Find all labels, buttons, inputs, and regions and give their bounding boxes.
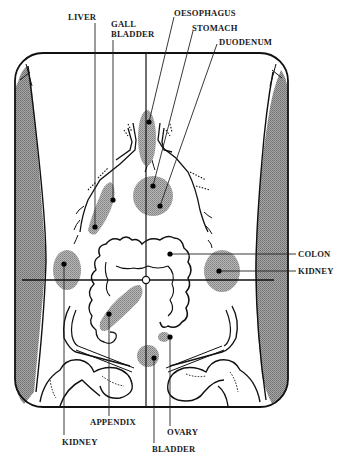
appendix-shading — [100, 285, 143, 331]
label-oesophagus: OESOPHAGUS — [174, 8, 236, 18]
bladder-shading — [137, 345, 159, 367]
marker-oesophagus — [146, 119, 151, 124]
label-gall-line2: BLADDER — [111, 29, 155, 39]
label-kidney-left: KIDNEY — [62, 437, 98, 447]
label-colon: COLON — [298, 249, 331, 259]
marker-liver — [92, 224, 97, 229]
kidney-left-shading — [53, 250, 81, 290]
abdomen-diagram: LIVER GALL BLADDER OESOPHAGUS STOMACH DU… — [0, 0, 346, 466]
marker-stomach — [150, 183, 155, 188]
oesophagus-shading — [138, 110, 156, 166]
marker-kidney-right — [216, 268, 221, 273]
marker-bladder — [151, 355, 156, 360]
label-liver: LIVER — [68, 12, 97, 22]
label-appendix: APPENDIX — [90, 417, 137, 427]
stomach-shading — [133, 176, 173, 216]
umbilicus-marker — [142, 276, 149, 283]
labels: LIVER GALL BLADDER OESOPHAGUS STOMACH DU… — [62, 8, 334, 454]
marker-appendix — [106, 311, 111, 316]
label-bladder: BLADDER — [152, 444, 196, 454]
label-ovary: OVARY — [167, 427, 199, 437]
marker-gall-bladder — [110, 197, 115, 202]
marker-duodenum — [157, 203, 162, 208]
label-kidney-right: KIDNEY — [298, 266, 334, 276]
marker-kidney-left — [61, 261, 66, 266]
left-flank-shading — [15, 66, 46, 404]
label-gall-line1: GALL — [111, 19, 136, 29]
marker-colon — [167, 251, 172, 256]
label-stomach: STOMACH — [192, 23, 238, 33]
liver-shading — [88, 182, 115, 235]
marker-ovary — [167, 334, 172, 339]
label-duodenum: DUODENUM — [219, 37, 272, 47]
